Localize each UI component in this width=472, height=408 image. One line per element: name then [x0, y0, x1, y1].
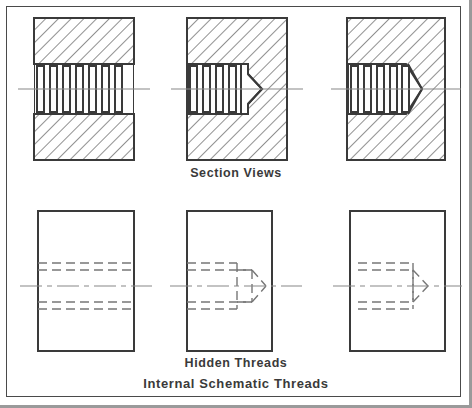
drawing-page: Section Views Hidden Threads Internal Sc…	[0, 0, 472, 408]
technical-drawing-canvas	[0, 0, 472, 408]
section-view-through-hole	[18, 18, 150, 160]
caption-hidden-threads: Hidden Threads	[0, 356, 472, 370]
caption-internal-schematic-threads: Internal Schematic Threads	[0, 376, 472, 391]
section-view-blind-cone	[331, 18, 461, 160]
section-view-blind-chamfer	[171, 18, 303, 160]
caption-section-views: Section Views	[0, 166, 472, 180]
hidden-view-through-hole	[20, 211, 152, 351]
hidden-view-blind-cone	[333, 211, 462, 351]
hidden-view-blind-chamfer	[170, 211, 302, 351]
